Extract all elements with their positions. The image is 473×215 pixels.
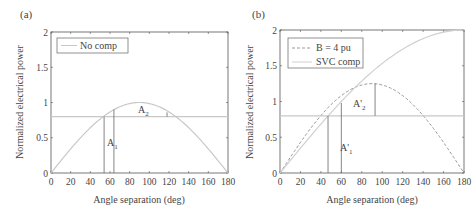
panel-label-b: (b) xyxy=(252,8,265,21)
x-tick-label: 80 xyxy=(125,177,135,187)
x-tick-label: 140 xyxy=(416,177,431,187)
y-tick-label: 1 xyxy=(43,98,48,108)
y-tick-label: 0.5 xyxy=(265,133,277,143)
x-tick-label: 80 xyxy=(357,177,367,187)
annotation-a1: A1 xyxy=(107,137,118,151)
x-tick-label: 40 xyxy=(86,177,96,187)
x-tick-label: 180 xyxy=(457,177,472,187)
legend-b: B = 4 pu SVC comp xyxy=(288,38,363,68)
x-tick-label: 100 xyxy=(142,177,157,187)
x-tick-label: 0 xyxy=(49,177,54,187)
legend-a: No comp xyxy=(57,38,128,53)
legend-entry-svc-comp: SVC comp xyxy=(316,56,360,67)
x-tick-label: 20 xyxy=(66,177,76,187)
x-tick-label: 160 xyxy=(436,177,451,187)
annotation-a2: A2 xyxy=(138,104,149,118)
y-tick-label: 0 xyxy=(272,169,277,179)
x-tick-label: 140 xyxy=(182,177,197,187)
x-tick-label: 120 xyxy=(162,177,177,187)
y-tick-label: 1.5 xyxy=(265,61,277,71)
y-tick-label: 2 xyxy=(272,26,277,36)
x-tick-label: 0 xyxy=(278,177,283,187)
x-tick-label: 120 xyxy=(396,177,411,187)
annotation-a1-prime: A'1 xyxy=(340,142,353,156)
y-tick-label: 1 xyxy=(272,97,277,107)
x-axis-label-b: Angle separation (deg) xyxy=(326,194,418,206)
x-tick-label: 60 xyxy=(337,177,347,187)
chart-panel-b: (b) 02040608010012014016018000.511.52 No… xyxy=(236,0,473,215)
series-b-4-pu xyxy=(280,84,464,173)
x-tick-label: 160 xyxy=(201,177,216,187)
panel-label-a: (a) xyxy=(20,8,33,21)
x-tick-label: 100 xyxy=(375,177,390,187)
x-axis-label-a: Angle separation (deg) xyxy=(93,194,185,206)
x-tick-label: 40 xyxy=(316,177,326,187)
y-tick-label: 0.5 xyxy=(36,133,48,143)
y-axis-label-a: Normalized electrical power xyxy=(14,44,25,158)
legend-entry-no-comp: No comp xyxy=(80,40,117,51)
x-tick-label: 60 xyxy=(105,177,115,187)
y-tick-label: 2 xyxy=(43,28,48,38)
chart-panel-a: (a) 02040608010012014016018000.511.52 No… xyxy=(0,0,236,215)
x-tick-label: 20 xyxy=(296,177,306,187)
legend-entry-b4pu: B = 4 pu xyxy=(316,42,351,53)
x-tick-label: 180 xyxy=(221,177,236,187)
y-axis-label-b: Normalized electrical power xyxy=(244,44,255,158)
y-tick-label: 0 xyxy=(43,169,48,179)
annotation-a2-prime: A'2 xyxy=(353,98,366,112)
y-tick-label: 1.5 xyxy=(36,63,48,73)
